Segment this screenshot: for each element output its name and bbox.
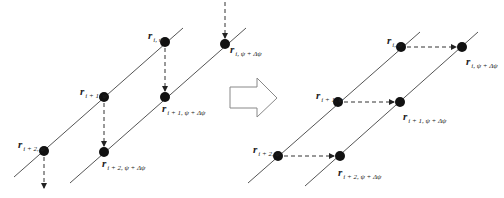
transform-arrow-icon: [230, 78, 277, 117]
vector-symbol: r: [18, 138, 22, 150]
subscript: i, ψ: [392, 41, 402, 49]
vector-symbol: r: [230, 43, 234, 55]
right-label-1: ri, ψ + Δψ: [466, 52, 498, 68]
subscript: i, ψ + Δψ: [235, 50, 261, 58]
right-label-5: ri + 2, ψ + Δψ: [338, 163, 381, 179]
right-label-2: ri + 1, ψ: [316, 86, 343, 102]
diagram-canvas: ri, ψri, ψ + Δψri + 1, ψri + 1, ψ + Δψri…: [0, 0, 504, 198]
subscript: i + 2, ψ + Δψ: [107, 164, 145, 172]
subscript: i + 1, ψ + Δψ: [408, 117, 446, 125]
right-line-1: [305, 32, 478, 186]
right-point-4: [395, 97, 405, 107]
left-label-4: ri + 2, ψ: [18, 135, 45, 151]
right-label-3: ri + 1, ψ + Δψ: [403, 107, 446, 123]
left-label-5: ri + 2, ψ + Δψ: [102, 154, 145, 170]
right-label-4: ri + 2, ψ: [253, 140, 280, 156]
left-line-1: [70, 28, 246, 183]
subscript: i + 2, ψ + Δψ: [343, 173, 381, 181]
diagram-svg: [0, 0, 504, 198]
subscript: i, ψ + Δψ: [471, 62, 497, 70]
subscript: i, ψ: [153, 36, 163, 44]
right-point-3: [335, 151, 345, 161]
left-line-0: [14, 28, 183, 177]
left-label-3: ri + 1, ψ + Δψ: [162, 99, 205, 115]
vector-symbol: r: [338, 166, 342, 178]
vector-symbol: r: [102, 157, 106, 169]
left-label-1: ri, ψ + Δψ: [230, 40, 262, 56]
subscript: i + 1, ψ: [85, 92, 107, 100]
vector-symbol: r: [316, 89, 320, 101]
vector-symbol: r: [148, 29, 152, 41]
subscript: i + 1, ψ: [321, 96, 343, 104]
left-point-5: [220, 39, 230, 49]
vector-symbol: r: [387, 34, 391, 46]
subscript: i + 1, ψ + Δψ: [167, 109, 205, 117]
left-label-2: ri + 1, ψ: [80, 82, 107, 98]
vector-symbol: r: [403, 110, 407, 122]
left-label-0: ri, ψ: [148, 26, 163, 42]
vector-symbol: r: [466, 55, 470, 67]
subscript: i + 2, ψ: [23, 145, 45, 153]
vector-symbol: r: [162, 102, 166, 114]
right-label-0: ri, ψ: [387, 31, 402, 47]
vector-symbol: r: [80, 85, 84, 97]
vector-symbol: r: [253, 143, 257, 155]
subscript: i + 2, ψ: [258, 150, 280, 158]
right-point-5: [457, 42, 467, 52]
